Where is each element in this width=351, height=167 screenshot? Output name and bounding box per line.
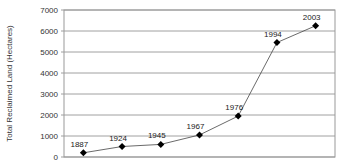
- data-point-marker: [119, 143, 126, 150]
- y-tick-label: 7000: [40, 6, 58, 15]
- y-tick-label: 4000: [40, 69, 58, 78]
- y-tick-label: 6000: [40, 27, 58, 36]
- data-point-marker: [312, 22, 319, 29]
- data-point-marker: [235, 113, 242, 120]
- y-tick-label: 1000: [40, 132, 58, 141]
- data-label: 1924: [109, 134, 127, 143]
- y-tick-label: 0: [54, 153, 59, 162]
- data-labels: 1887192419451967197619942003: [70, 13, 321, 149]
- data-label: 2003: [303, 13, 321, 22]
- y-tick-label: 2000: [40, 111, 58, 120]
- data-label: 1994: [264, 30, 282, 39]
- data-label: 1945: [148, 131, 166, 140]
- data-label: 1967: [187, 122, 205, 131]
- data-label: 1976: [225, 103, 243, 112]
- y-tick-label: 3000: [40, 90, 58, 99]
- y-axis-ticks: 01000200030004000500060007000: [40, 6, 64, 162]
- data-point-marker: [157, 141, 164, 148]
- data-point-marker: [273, 39, 280, 46]
- y-tick-label: 5000: [40, 48, 58, 57]
- line-chart: 01000200030004000500060007000 Total Recl…: [0, 0, 351, 167]
- data-point-marker: [196, 131, 203, 138]
- data-label: 1887: [70, 140, 88, 149]
- data-point-marker: [80, 149, 87, 156]
- y-axis-label: Total Reclaimed Land (Hectares): [5, 25, 14, 142]
